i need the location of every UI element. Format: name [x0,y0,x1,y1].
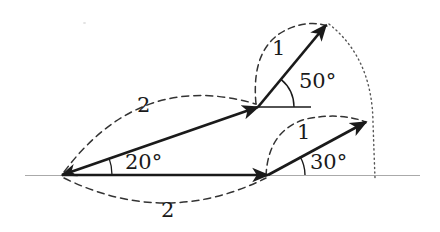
label-magnitude-1-upper: 1 [272,38,285,59]
angle-arc-30 [300,157,305,176]
angle-arc-20 [109,158,112,175]
label-magnitude-2-lower: 2 [161,200,174,221]
angle-arc-50 [281,79,294,107]
label-angle-30: 30° [310,152,347,173]
vector-diagram-figure: 2 2 1 1 20° 50° 30° [0,0,440,232]
label-angle-20: 20° [125,152,162,173]
label-angle-50: 50° [299,71,336,92]
scan-artifact-speck [83,22,86,24]
label-magnitude-1-lower: 1 [297,122,310,143]
diagram-canvas [0,0,440,232]
label-magnitude-2-upper: 2 [137,95,150,116]
